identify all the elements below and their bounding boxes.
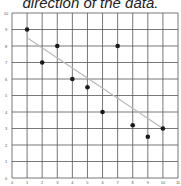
y-tick-label: 10 [4,11,9,16]
data-point [85,85,90,90]
x-tick-label: 0 [11,180,14,185]
y-tick-label: 3 [5,126,8,131]
x-tick-label: 11 [176,180,181,185]
x-tick-label: 7 [117,180,120,185]
y-tick-label: 4 [5,110,8,115]
data-point [70,77,75,82]
x-tick-label: 9 [147,180,150,185]
x-tick-label: 4 [71,180,74,185]
y-tick-label: 1 [5,159,8,164]
data-point [100,110,105,115]
trend-line [27,38,163,129]
y-tick-label: 9 [5,27,8,32]
data-point [25,27,30,32]
data-point [40,60,45,65]
x-tick-label: 6 [101,180,104,185]
x-tick-label: 2 [41,180,44,185]
x-tick-label: 1 [26,180,29,185]
data-point [130,123,135,128]
y-tick-label: 2 [5,143,8,148]
data-point [161,126,166,131]
y-tick-label: 8 [5,44,8,49]
data-point [55,44,60,49]
x-tick-label: 8 [132,180,135,185]
y-tick-label: 7 [5,60,8,65]
y-tick-label: 6 [5,77,8,82]
y-tick-label: 5 [5,93,8,98]
scatter-plot: 01234567891011012345678910 [0,0,181,186]
x-tick-label: 5 [86,180,89,185]
x-tick-label: 10 [161,180,166,185]
x-tick-label: 3 [56,180,59,185]
data-point [146,134,151,139]
data-point [115,44,120,49]
y-tick-label: 0 [5,176,8,181]
